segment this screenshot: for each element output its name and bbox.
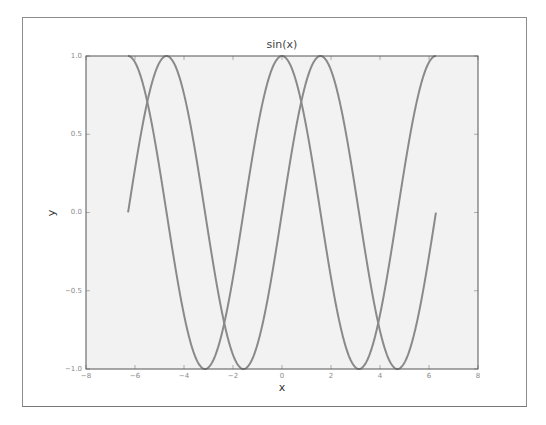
- x-tick-label: −8: [74, 372, 98, 380]
- x-tick-label: −4: [172, 372, 196, 380]
- x-tick-label: 8: [466, 372, 490, 380]
- chart-title: sin(x): [0, 38, 546, 51]
- y-tick-label: 0.5: [52, 130, 82, 138]
- y-tick-label: 0.0: [52, 208, 82, 216]
- x-tick-label: 4: [368, 372, 392, 380]
- x-tick-label: −2: [221, 372, 245, 380]
- x-tick-label: 2: [319, 372, 343, 380]
- y-tick-label: 1.0: [52, 52, 82, 60]
- x-tick-label: 6: [417, 372, 441, 380]
- x-axis-label: x: [272, 381, 292, 394]
- x-tick-label: 0: [270, 372, 294, 380]
- x-tick-label: −6: [123, 372, 147, 380]
- y-tick-label: −0.5: [52, 287, 82, 295]
